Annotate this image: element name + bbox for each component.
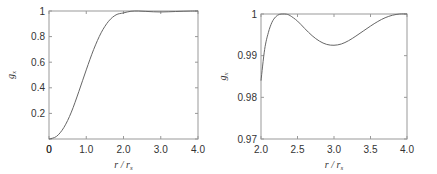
x-tick-label: 4.0 xyxy=(191,144,205,155)
x-tick-label: 1.0 xyxy=(79,144,93,155)
y-axis-label: gx xyxy=(217,72,230,81)
y-tick-label: 0.4 xyxy=(31,82,45,93)
y-axis-label: gx xyxy=(5,70,18,79)
plot-frame xyxy=(261,14,407,139)
gx-curve xyxy=(49,11,198,139)
y-tick-label: 0.8 xyxy=(31,31,45,42)
y-tick-label: 0.2 xyxy=(31,108,45,119)
x-tick-label: 2.0 xyxy=(117,144,131,155)
x-tick-label: 2.5 xyxy=(291,144,305,155)
x-tick-label: 3.0 xyxy=(154,144,168,155)
left-panel: 01.02.03.04.000.20.40.60.81r / rsgx xyxy=(5,6,205,173)
y-tick-label: 0.6 xyxy=(31,57,45,68)
plot-frame xyxy=(49,11,198,139)
y-tick-label: 0.98 xyxy=(238,92,258,103)
y-tick-label: 0.99 xyxy=(238,50,258,61)
x-tick-label: 3.5 xyxy=(364,144,378,155)
x-tick-label: 4.0 xyxy=(400,144,414,155)
y-tick-label: 1 xyxy=(251,9,257,20)
gx-curve xyxy=(261,14,407,81)
x-tick-label: 3.0 xyxy=(327,144,341,155)
y-tick-label: 1 xyxy=(39,6,45,17)
x-axis-label: r / rs xyxy=(325,159,344,172)
y-tick-label: 0 xyxy=(46,144,52,155)
x-axis-label: r / rs xyxy=(114,159,133,172)
right-panel: 2.02.53.03.54.00.970.980.991r / rsgx xyxy=(217,9,414,173)
y-tick-label: 0.97 xyxy=(238,134,258,145)
x-tick-label: 2.0 xyxy=(254,144,268,155)
chart-figure: 01.02.03.04.000.20.40.60.81r / rsgx 2.02… xyxy=(0,0,437,174)
